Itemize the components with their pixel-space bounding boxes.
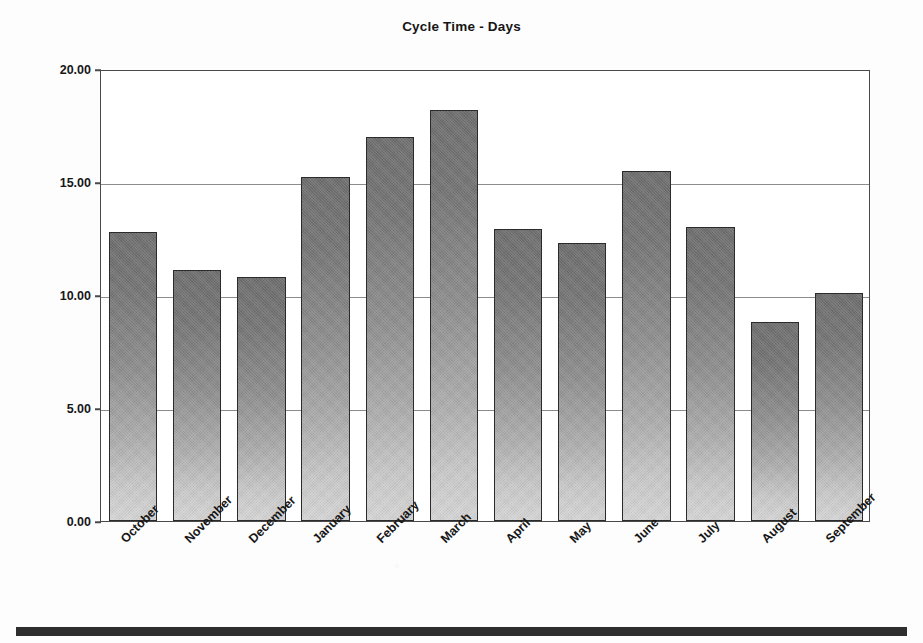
bar-grain [623,172,669,520]
bar [815,293,863,521]
plot-area [100,70,870,522]
bar-grain [367,138,413,520]
bar-grain [816,294,862,520]
bar-grain [559,244,605,520]
bar [109,232,157,521]
bar [686,227,734,521]
bar-grain [302,178,348,520]
bar [494,229,542,521]
bar [430,110,478,521]
bar [366,137,414,521]
bar [301,177,349,521]
bar-grain [238,278,284,520]
bar [237,277,285,521]
y-tick-label: 10.00 [60,289,91,303]
y-axis: 0.005.0010.0015.0020.00 [0,0,100,643]
x-axis: OctoberNovemberDecemberJanuaryFebruaryMa… [100,522,870,632]
chart-title: Cycle Time - Days [0,19,923,34]
bar-grain [687,228,733,520]
bar-grain [110,233,156,520]
chart-page: Cycle Time - Days 0.005.0010.0015.0020.0… [0,0,923,643]
footer-rule [16,627,907,636]
bar [173,270,221,521]
x-tick-label: July [695,518,723,546]
y-tick-label: 0.00 [67,515,91,529]
bar-grain [495,230,541,520]
y-tick-label: 15.00 [60,176,91,190]
bar [558,243,606,521]
bar [622,171,670,521]
y-tick-label: 20.00 [60,63,91,77]
bar [751,322,799,521]
bar-grain [752,323,798,520]
bars-layer [101,71,869,521]
y-tick-label: 5.00 [67,402,91,416]
x-tick-label: May [567,519,594,546]
bar-grain [174,271,220,520]
bar-grain [431,111,477,520]
